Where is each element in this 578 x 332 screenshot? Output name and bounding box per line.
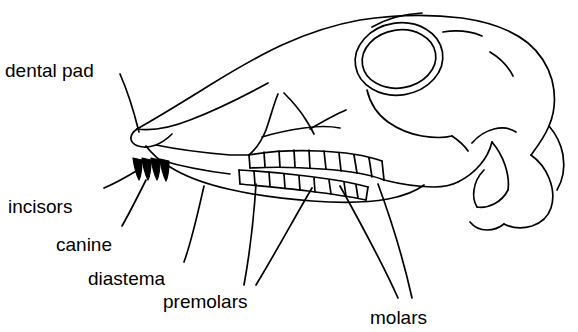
- upper-tooth-sep-3: [294, 150, 295, 167]
- label-molars: molars: [370, 307, 427, 328]
- lower-tooth-sep-6: [329, 180, 331, 194]
- occipital-outline: [504, 155, 553, 228]
- zygomatic-root: [452, 136, 468, 151]
- paracondylar-tip: [470, 222, 504, 230]
- label-diastema: diastema: [88, 268, 165, 289]
- figure-container: dental pad incisors canine diastema prem…: [0, 0, 578, 332]
- lower-tooth-sep-0: [239, 170, 240, 184]
- label-canine: canine: [56, 234, 112, 255]
- maxilla-ventral-border: [156, 145, 249, 155]
- incisor-2: [142, 158, 151, 180]
- upper-tooth-row-top: [249, 151, 382, 161]
- mandible-body-upper-rear: [384, 180, 458, 187]
- frontal-detail-2: [490, 52, 513, 76]
- upper-tooth-sep-5: [324, 151, 326, 169]
- condylar-process: [458, 142, 492, 182]
- lower-tooth-sep-5: [314, 178, 315, 192]
- lower-tooth-sep-4: [299, 176, 300, 190]
- temporal-fossa-line: [472, 128, 516, 143]
- skull-diagram: [0, 0, 578, 332]
- leader-diastema: [184, 186, 204, 262]
- lower-tooth-sep-1: [254, 171, 255, 185]
- label-premolars: premolars: [163, 291, 247, 312]
- upper-tooth-sep-0: [249, 155, 250, 168]
- upper-tooth-sep-2: [279, 151, 280, 167]
- lower-tooth-sep-3: [284, 174, 285, 188]
- lower-tooth-sep-8: [356, 185, 358, 198]
- facial-crest: [249, 94, 278, 155]
- jugular-process: [492, 142, 508, 190]
- tympanic-bulla-lower: [477, 190, 508, 207]
- upper-tooth-sep-8: [369, 158, 372, 177]
- orbit-inner: [358, 25, 440, 94]
- occipital-crest: [549, 126, 564, 190]
- upper-tooth-sep-1: [264, 152, 265, 167]
- canine-tooth: [160, 159, 169, 181]
- leader-dental-pad: [120, 74, 139, 132]
- leader-molars-right: [378, 184, 412, 298]
- leader-canine: [122, 180, 146, 226]
- incisor-3: [151, 158, 160, 180]
- lower-tooth-row-top: [239, 170, 368, 187]
- leader-premolars-upper: [244, 184, 256, 285]
- zygomatic-arch: [367, 90, 452, 138]
- leader-molars-left: [340, 186, 398, 298]
- upper-tooth-sep-9: [382, 161, 384, 180]
- label-incisors: incisors: [8, 196, 72, 217]
- leader-premolars-lower: [256, 188, 312, 285]
- dental-pad-tip: [131, 129, 172, 147]
- upper-tooth-sep-4: [309, 150, 310, 168]
- label-dental-pad: dental pad: [5, 60, 94, 81]
- frontal-detail-1: [443, 31, 482, 36]
- lacrimal-suture: [262, 127, 340, 138]
- upper-tooth-sep-6: [339, 153, 341, 171]
- lower-tooth-sep-9: [366, 187, 368, 200]
- incisor-1: [133, 158, 142, 180]
- leader-incisors: [104, 170, 138, 188]
- cranium-dorsal-outline: [137, 16, 554, 155]
- lower-tooth-sep-2: [269, 172, 270, 186]
- tympanic-bulla-left: [474, 170, 484, 207]
- upper-tooth-sep-7: [354, 155, 357, 173]
